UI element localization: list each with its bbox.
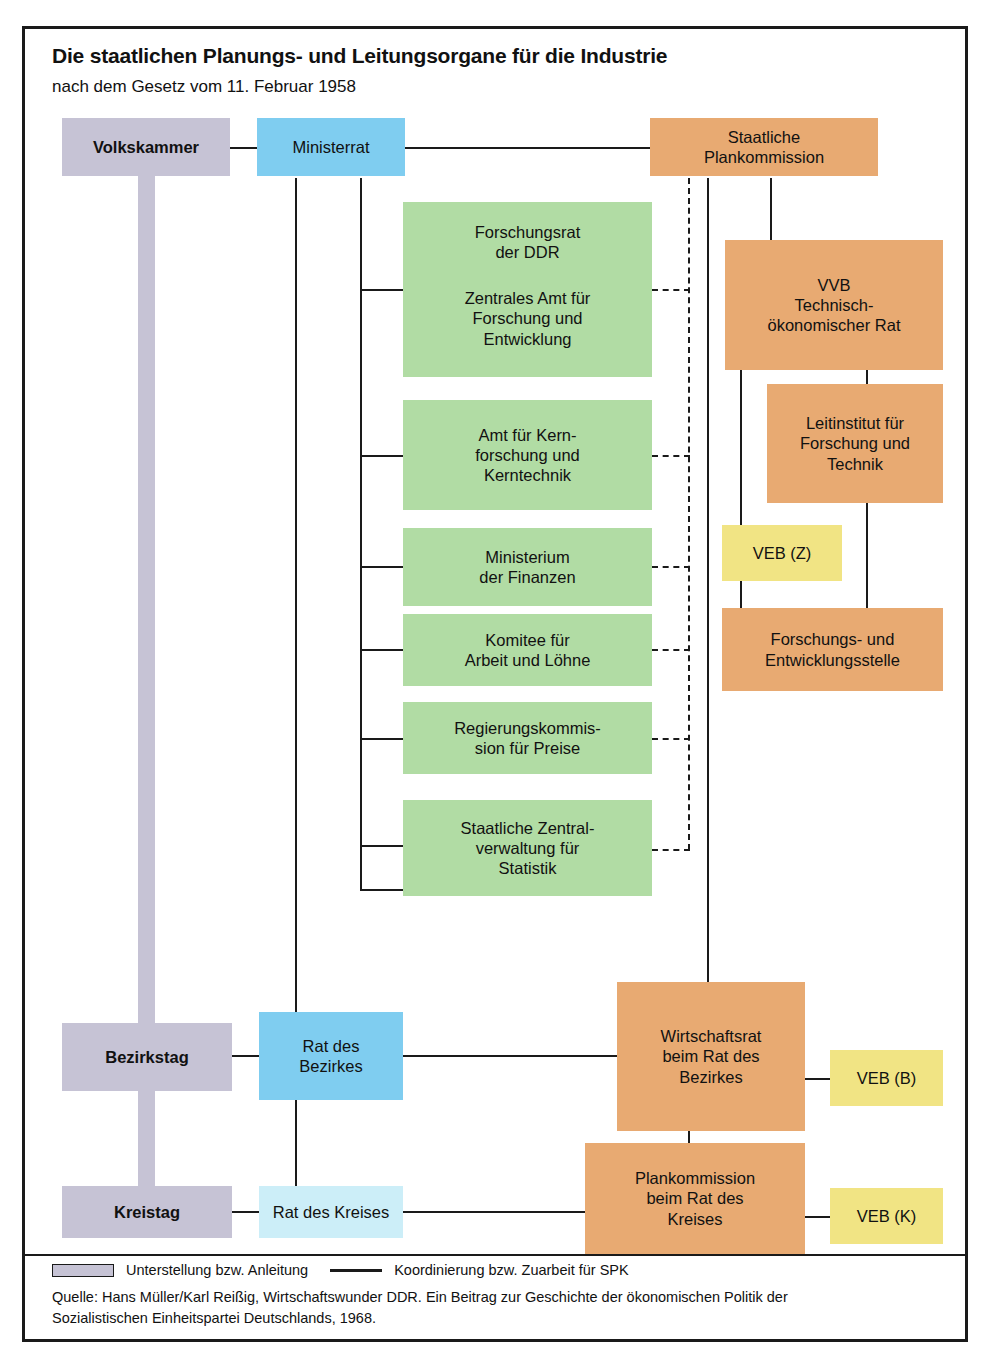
page-title: Die staatlichen Planungs- und Leitungsor…	[52, 44, 667, 68]
line-volkskammer-ministerrat	[229, 147, 257, 149]
line-ratbezirk-wirtschaftsrat	[403, 1055, 617, 1057]
line-branch-arbeit	[360, 649, 403, 651]
node-forschungsrat-label-line1: Forschungsrat	[475, 222, 580, 242]
legend-unterstellung-swatch	[52, 1264, 114, 1277]
line-ministerrat-spk	[405, 147, 650, 149]
node-statistik-label-line1: Staatliche Zentral-	[461, 818, 595, 838]
node-kernforschung-label-line1: Amt für Kern-	[478, 425, 576, 445]
node-preise-label-line1: Regierungskommis-	[454, 718, 601, 738]
node-bezirkstag-label: Bezirkstag	[105, 1047, 188, 1067]
dashed-stub-finanzen	[652, 566, 690, 568]
line-branch-forschungsrat	[360, 289, 403, 291]
node-leitinstitut-label-line1: Leitinstitut für	[806, 413, 904, 433]
source-note: Quelle: Hans Müller/Karl Reißig, Wirtsch…	[52, 1287, 932, 1329]
node-forschungsrat-label-line2: der DDR	[495, 242, 559, 262]
node-fue-label-line2: Entwicklungsstelle	[765, 650, 900, 670]
source-line-2: Sozialistischen Einheitspartei Deutschla…	[52, 1308, 932, 1329]
node-volkskammer[interactable]: Volkskammer	[62, 118, 230, 176]
line-branch-kernforschung	[360, 455, 403, 457]
diagram-page: Die staatlichen Planungs- und Leitungsor…	[0, 0, 990, 1369]
node-plankomkreis-label-line1: Plankommission	[635, 1168, 755, 1188]
node-vvb-label-line3: ökonomischer Rat	[768, 315, 901, 335]
line-vvb-leitinstitut	[866, 370, 868, 384]
node-leitinstitut-forschung-technik[interactable]: Leitinstitut für Forschung und Technik	[767, 384, 943, 503]
line-ratbezirk-ratkreis	[295, 1100, 297, 1191]
node-kernforschung-label-line3: Kerntechnik	[484, 465, 571, 485]
node-zentralamt-label-line3: Entwicklung	[483, 329, 571, 349]
node-rat-des-bezirkes[interactable]: Rat des Bezirkes	[259, 1012, 403, 1100]
source-line-1: Quelle: Hans Müller/Karl Reißig, Wirtsch…	[52, 1287, 932, 1308]
node-volkskammer-label: Volkskammer	[93, 137, 199, 157]
node-regierungskommission-preise[interactable]: Regierungskommis- sion für Preise	[403, 702, 652, 774]
node-arbeit-label-line2: Arbeit und Löhne	[465, 650, 591, 670]
node-ministerrat-label: Ministerrat	[292, 137, 369, 157]
node-ratbezirk-label-line2: Bezirkes	[299, 1056, 362, 1076]
unterstellung-bar-bezirkstag	[138, 1078, 155, 1191]
node-wirtschaftsrat-label-line2: beim Rat des	[662, 1046, 759, 1066]
node-leitinstitut-label-line2: Forschung und	[800, 433, 910, 453]
dashed-stub-statistik	[652, 849, 690, 851]
node-komitee-arbeit-loehne[interactable]: Komitee für Arbeit und Löhne	[403, 614, 652, 686]
node-vvb-label-line1: VVB	[817, 275, 850, 295]
dashed-stub-forschungsrat	[652, 289, 690, 291]
dashed-stub-preise	[652, 738, 690, 740]
node-zentralamt-label-line2: Forschung und	[472, 308, 582, 328]
node-staatliche-plankommission[interactable]: Staatliche Plankommission	[650, 118, 878, 176]
node-arbeit-label-line1: Komitee für	[485, 630, 569, 650]
line-kreistag-ratkreis	[232, 1211, 259, 1213]
node-statistik-label-line2: verwaltung für	[476, 838, 580, 858]
line-spk-vertical-right	[770, 178, 772, 240]
node-preise-label-line2: sion für Preise	[475, 738, 580, 758]
line-branch-statistik-stub	[360, 889, 403, 891]
legend-divider	[25, 1254, 965, 1256]
node-ministerium-finanzen[interactable]: Ministerium der Finanzen	[403, 528, 652, 606]
node-statistik-label-line3: Statistik	[499, 858, 557, 878]
legend-koordinierung-label: Koordinierung bzw. Zuarbeit für SPK	[394, 1262, 629, 1278]
node-bezirkstag[interactable]: Bezirkstag	[62, 1023, 232, 1091]
legend-koordinierung-line	[330, 1269, 382, 1272]
node-veb-k[interactable]: VEB (K)	[830, 1188, 943, 1244]
node-spk-label-line2: Plankommission	[704, 147, 824, 167]
node-zentralamt-label-line1: Zentrales Amt für	[465, 288, 591, 308]
page-subtitle: nach dem Gesetz vom 11. Februar 1958	[52, 77, 356, 97]
line-vebz-fue	[740, 581, 742, 608]
node-ministerrat[interactable]: Ministerrat	[257, 118, 405, 176]
dashed-stub-arbeit	[652, 649, 690, 651]
node-plankommission-kreis[interactable]: Plankommission beim Rat des Kreises	[585, 1143, 805, 1254]
node-wirtschaftsrat-bezirk[interactable]: Wirtschaftsrat beim Rat des Bezirkes	[617, 982, 805, 1131]
node-kreistag-label: Kreistag	[114, 1202, 180, 1222]
dashed-stub-kernforschung	[652, 455, 690, 457]
line-branch-statistik	[360, 845, 403, 847]
node-vvb-technisch-oekonomischer-rat[interactable]: VVB Technisch- ökonomischer Rat	[725, 240, 943, 370]
node-vvb-label-line2: Technisch-	[795, 295, 874, 315]
node-finanzen-label-line1: Ministerium	[485, 547, 569, 567]
line-branch-preise	[360, 738, 403, 740]
line-plankomkreis-vebk	[805, 1216, 830, 1218]
line-ministerrat-vertical-green-trunk	[360, 178, 362, 891]
line-branch-finanzen	[360, 566, 403, 568]
node-forschungs-entwicklungsstelle[interactable]: Forschungs- und Entwicklungsstelle	[722, 608, 943, 691]
node-forschungsrat-zentralamt[interactable]: Forschungsrat der DDR Zentrales Amt für …	[403, 202, 652, 377]
node-plankomkreis-label-line2: beim Rat des	[646, 1188, 743, 1208]
node-zentralverwaltung-statistik[interactable]: Staatliche Zentral- verwaltung für Stati…	[403, 800, 652, 896]
node-spk-label-line1: Staatliche	[728, 127, 800, 147]
node-wirtschaftsrat-label-line1: Wirtschaftsrat	[661, 1026, 762, 1046]
legend: Unterstellung bzw. Anleitung Koordinieru…	[52, 1262, 629, 1278]
line-ministerrat-vertical-long	[295, 178, 297, 1020]
legend-unterstellung-label: Unterstellung bzw. Anleitung	[126, 1262, 308, 1278]
node-vebb-label: VEB (B)	[857, 1068, 917, 1088]
node-ratbezirk-label-line1: Rat des	[303, 1036, 360, 1056]
node-veb-b[interactable]: VEB (B)	[830, 1050, 943, 1106]
node-finanzen-label-line2: der Finanzen	[479, 567, 575, 587]
line-vvb-vebz	[740, 370, 742, 525]
node-vebk-label: VEB (K)	[857, 1206, 917, 1226]
node-kreistag[interactable]: Kreistag	[62, 1186, 232, 1238]
line-spk-vertical-left	[707, 178, 709, 990]
node-leitinstitut-label-line3: Technik	[827, 454, 883, 474]
line-wirtschaftsrat-vebb	[805, 1078, 830, 1080]
node-rat-des-kreises[interactable]: Rat des Kreises	[259, 1186, 403, 1238]
node-veb-z[interactable]: VEB (Z)	[722, 525, 842, 581]
node-plankomkreis-label-line3: Kreises	[667, 1209, 722, 1229]
line-bezirkstag-ratbezirk	[232, 1055, 259, 1057]
node-amt-kernforschung[interactable]: Amt für Kern- forschung und Kerntechnik	[403, 400, 652, 510]
